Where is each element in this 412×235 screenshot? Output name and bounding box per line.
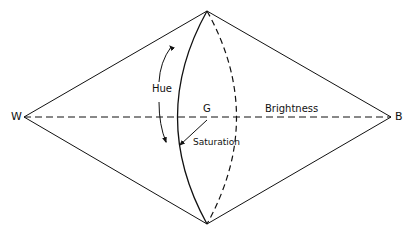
label-brightness: Brightness [265, 104, 318, 114]
diagram-lines [0, 0, 412, 235]
label-hue: Hue [152, 84, 172, 94]
label-black: B [395, 111, 403, 122]
label-gray: G [203, 104, 211, 114]
hue-arrow [159, 47, 171, 142]
label-saturation: Saturation [193, 138, 240, 147]
color-solid-diagram: W B G Hue Brightness Saturation [0, 0, 412, 235]
label-white: W [11, 111, 22, 122]
